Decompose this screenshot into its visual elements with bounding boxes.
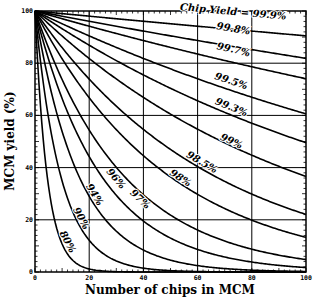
curve-label: 97% bbox=[128, 187, 153, 211]
curve-label: 96% bbox=[105, 166, 129, 191]
yield-curves bbox=[35, 11, 306, 272]
curve-label: 99% bbox=[219, 131, 245, 151]
y-tick-label: 20 bbox=[25, 216, 33, 224]
y-axis-title: MCM yield (%) bbox=[3, 91, 17, 190]
x-tick-label: 20 bbox=[85, 274, 93, 282]
plot-frame bbox=[35, 11, 306, 272]
minor-ticks bbox=[35, 11, 306, 272]
curve-94pct bbox=[35, 11, 306, 271]
x-tick-labels: 020406080100 bbox=[33, 274, 312, 282]
x-tick-label: 0 bbox=[33, 274, 37, 282]
mcm-yield-chart: Chip Yield = 99.9%99.8%99.7%99.5%99.3%99… bbox=[0, 0, 319, 300]
grid-lines bbox=[35, 11, 306, 272]
y-tick-label: 80 bbox=[25, 59, 33, 67]
curve-label: 99.8% bbox=[216, 20, 252, 37]
curve-label: 94% bbox=[84, 182, 106, 208]
curve-label: Chip Yield = 99.9% bbox=[180, 1, 288, 21]
curve-label: 98% bbox=[168, 167, 194, 189]
x-tick-label: 80 bbox=[248, 274, 256, 282]
y-tick-label: 60 bbox=[25, 111, 33, 119]
y-tick-labels: 020406080100 bbox=[21, 7, 33, 276]
x-tick-label: 60 bbox=[194, 274, 202, 282]
curve-99-5pct bbox=[35, 11, 306, 114]
curve-98pct bbox=[35, 11, 306, 237]
y-tick-label: 0 bbox=[29, 268, 33, 276]
curve-98-5pct bbox=[35, 11, 306, 214]
x-tick-label: 40 bbox=[139, 274, 147, 282]
curve-80pct bbox=[35, 11, 306, 272]
curve-90pct bbox=[35, 11, 306, 272]
x-tick-label: 100 bbox=[300, 274, 312, 282]
curve-label: 99.7% bbox=[216, 40, 252, 59]
x-axis-title: Number of chips in MCM bbox=[85, 283, 255, 297]
y-tick-label: 40 bbox=[25, 164, 33, 172]
y-tick-label: 100 bbox=[21, 7, 33, 15]
curve-label: 99.5% bbox=[213, 70, 249, 91]
curve-96pct bbox=[35, 11, 306, 268]
